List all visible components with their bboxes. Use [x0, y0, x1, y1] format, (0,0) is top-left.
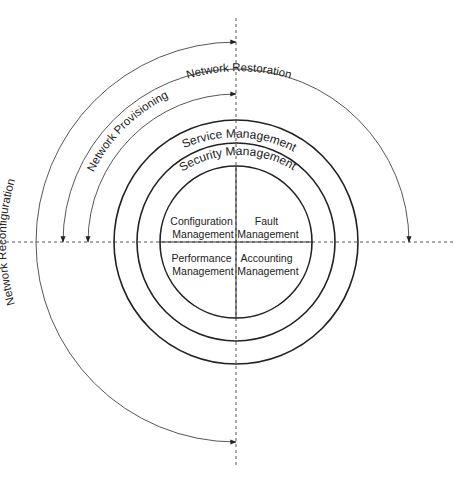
restoration-label: Network Restoration	[185, 61, 293, 80]
fault-management-label: Fault Management	[237, 215, 298, 240]
network-management-diagram: Network Restoration Network Provisioning…	[0, 0, 476, 484]
configuration-management-label: Configuration Management	[170, 215, 235, 240]
diagram-canvas: Network Restoration Network Provisioning…	[0, 0, 476, 484]
provisioning-label: Network Provisioning	[85, 89, 170, 174]
accounting-management-label: Accounting Management	[237, 252, 298, 277]
performance-management-label: Performance Management	[171, 252, 234, 277]
